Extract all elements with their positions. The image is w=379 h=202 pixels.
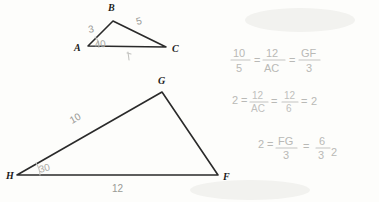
work-3-den-1: 3 <box>283 149 289 161</box>
work-2-den-1: AC <box>251 103 265 114</box>
vertex-label-b: B <box>107 2 115 13</box>
work-1-num-3: GF <box>301 47 317 59</box>
vertex-label-g: G <box>158 75 166 86</box>
work-1-den-2: AC <box>264 62 279 74</box>
pencil-mark-under-ac <box>127 52 131 60</box>
work-1-num-1: 10 <box>233 47 245 59</box>
paper-smudge <box>245 8 355 32</box>
work-2-op-1: = <box>241 94 247 106</box>
work-2-den-2: 6 <box>286 103 292 114</box>
geometry-drawing: A B C 3 5 40 H G F 10 12 30 10 5 = 12 AC… <box>0 0 379 202</box>
work-line-3: 2 = FG 3 = 6 3 2 <box>258 135 337 161</box>
side-label-ab: 3 <box>87 23 95 35</box>
paper-smudge <box>190 180 310 200</box>
work-3-num-1: FG <box>278 135 293 147</box>
work-1-num-2: 12 <box>266 47 278 59</box>
vertex-label-h: H <box>5 170 15 181</box>
work-1-den-3: 3 <box>306 62 312 74</box>
work-3-op-1: = <box>267 138 273 150</box>
side-label-bc: 5 <box>135 15 143 27</box>
work-line-2: 2 = 12 AC = 12 6 = 2 <box>232 90 317 114</box>
work-2-op-2: = <box>271 95 277 107</box>
work-1-den-1: 5 <box>236 62 242 74</box>
work-3-whole-2: 2 <box>331 146 337 158</box>
work-3-num-2: 6 <box>319 135 325 147</box>
work-3-op-2: = <box>303 140 309 152</box>
vertex-label-c: C <box>172 43 179 54</box>
work-2-whole-2: 2 <box>311 95 317 107</box>
vertex-label-f: F <box>222 171 230 182</box>
vertex-label-a: A <box>73 42 81 53</box>
work-3-den-2: 3 <box>318 149 324 161</box>
work-line-1: 10 5 = 12 AC = GF 3 <box>231 47 320 74</box>
side-label-hf: 12 <box>112 183 124 194</box>
work-2-num-2: 12 <box>284 90 296 101</box>
work-2-op-3: = <box>301 95 307 107</box>
side-label-hg: 10 <box>68 111 83 126</box>
work-2-whole-1: 2 <box>232 94 238 106</box>
work-1-op-2: = <box>289 54 295 66</box>
worksheet-canvas: A B C 3 5 40 H G F 10 12 30 10 5 = 12 AC… <box>0 0 379 202</box>
angle-label-a: 40 <box>94 38 107 50</box>
angle-label-h: 30 <box>38 161 52 175</box>
work-2-num-1: 12 <box>252 90 264 101</box>
work-1-op-1: = <box>254 54 260 66</box>
work-3-whole-1: 2 <box>258 138 264 150</box>
